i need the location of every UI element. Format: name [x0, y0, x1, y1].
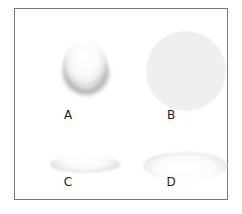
- label-b: B: [161, 108, 181, 122]
- label-d: D: [161, 175, 181, 189]
- label-a: A: [58, 108, 78, 122]
- shaded-sphere-a: [63, 41, 107, 87]
- recessed-ellipse-d: [143, 152, 227, 180]
- label-c: C: [58, 175, 78, 189]
- raised-ellipse-c: [50, 155, 120, 173]
- figure-frame: A B C D: [14, 8, 228, 200]
- flat-circle-b: [146, 31, 226, 111]
